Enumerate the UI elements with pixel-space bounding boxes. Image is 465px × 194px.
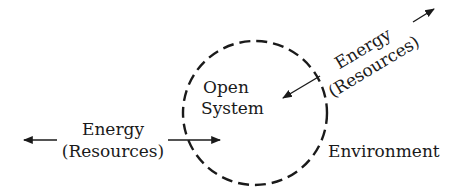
open-system-diagram: Open System Energy (Resources) Energy (R… bbox=[0, 0, 465, 194]
environment-label: Environment bbox=[328, 141, 440, 161]
right-inflow-arrow-icon bbox=[283, 76, 320, 98]
left-flow-label-line2: (Resources) bbox=[62, 141, 164, 161]
system-label-line1: Open bbox=[203, 77, 249, 97]
system-label-line2: System bbox=[201, 98, 264, 118]
left-flow-label-line1: Energy bbox=[82, 119, 144, 139]
right-outflow-arrow-icon bbox=[413, 9, 434, 22]
